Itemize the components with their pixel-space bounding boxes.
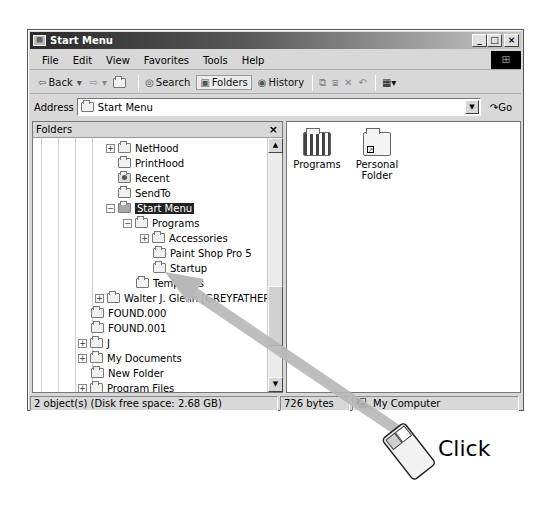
tree-label-selected: Start Menu: [135, 203, 194, 214]
folders-button[interactable]: ▣Folders: [196, 75, 252, 90]
address-input[interactable]: Start Menu ▼: [77, 98, 481, 116]
close-pane-icon[interactable]: ×: [269, 123, 278, 136]
scroll-up-icon[interactable]: ▲: [268, 138, 283, 153]
status-objects: 2 object(s) (Disk free space: 2.68 GB): [30, 396, 278, 411]
tree-label: SendTo: [135, 188, 171, 199]
menu-file[interactable]: File: [42, 55, 59, 66]
folder-icon: [118, 158, 131, 168]
undo-icon: ↶: [359, 77, 367, 88]
tree-item-program-files[interactable]: +Program Files: [78, 381, 174, 392]
standard-toolbar: ⇦Back▾ ⇨▾ ◎Search ▣Folders ◉History ⧉ ⧈ …: [30, 72, 521, 94]
folder-icon: [118, 143, 131, 153]
tree-item-printhood[interactable]: PrintHood: [118, 156, 184, 170]
go-label: Go: [498, 102, 512, 113]
title-bar[interactable]: ▤ Start Menu _ □ ×: [30, 32, 521, 49]
mouse-click-icon: [381, 418, 441, 484]
zone-label: My Computer: [373, 398, 440, 409]
shortcut-folder-icon: ↗: [363, 132, 391, 156]
address-label: Address: [34, 102, 74, 113]
tree-item-new-folder[interactable]: New Folder: [91, 366, 164, 380]
forward-arrow-icon: ⇨: [90, 77, 98, 88]
scroll-thumb[interactable]: [268, 286, 283, 346]
tree-label: PrintHood: [135, 158, 184, 169]
views-button[interactable]: ▦▾: [382, 77, 396, 88]
tree-label: Paint Shop Pro 5: [170, 248, 252, 259]
close-button[interactable]: ×: [504, 34, 519, 47]
expand-icon[interactable]: +: [106, 144, 115, 153]
back-dropdown-icon[interactable]: ▾: [77, 77, 82, 88]
copy-to-button[interactable]: ⧈: [332, 77, 338, 89]
tree-label: Accessories: [169, 233, 228, 244]
folder-icon: [153, 248, 166, 258]
folder-icon: [136, 278, 149, 288]
recent-folder-icon: [118, 173, 131, 183]
tree-item-start-menu[interactable]: −Start Menu: [106, 201, 194, 215]
address-dropdown-icon[interactable]: ▼: [465, 100, 479, 114]
scroll-down-icon[interactable]: ▼: [268, 377, 283, 392]
menu-tools[interactable]: Tools: [203, 55, 228, 66]
tree-label: My Documents: [107, 353, 182, 364]
tree-label: New Folder: [108, 368, 164, 379]
menu-edit[interactable]: Edit: [73, 55, 92, 66]
tree-label: Recent: [135, 173, 170, 184]
toolbar-separator: [312, 75, 313, 91]
tree-item-j[interactable]: +J: [78, 336, 110, 350]
folder-icon: [90, 383, 103, 392]
tree-item-found-001[interactable]: FOUND.001: [91, 321, 166, 335]
folder-icon: [90, 353, 103, 363]
expand-icon[interactable]: +: [78, 354, 87, 363]
tree-item-startup[interactable]: Startup: [153, 261, 207, 275]
item-programs[interactable]: Programs: [287, 132, 347, 170]
collapse-icon[interactable]: −: [106, 204, 115, 213]
status-size: 726 bytes: [280, 396, 350, 411]
tree-item-found-000[interactable]: FOUND.000: [91, 306, 166, 320]
go-arrow-icon: ↷: [490, 102, 498, 113]
menu-view[interactable]: View: [106, 55, 130, 66]
history-button[interactable]: ◉History: [258, 77, 304, 88]
maximize-button[interactable]: □: [487, 34, 502, 47]
folder-icon: [91, 368, 104, 378]
expand-icon[interactable]: +: [95, 294, 104, 303]
minimize-button[interactable]: _: [472, 34, 487, 47]
delete-button[interactable]: ✕: [344, 77, 352, 88]
collapse-icon[interactable]: −: [123, 219, 132, 228]
tree-item-nethood[interactable]: +NetHood: [106, 141, 179, 155]
menu-favorites[interactable]: Favorites: [144, 55, 189, 66]
address-bar: Address Start Menu ▼ ↷Go: [30, 96, 521, 118]
folder-icon: [152, 233, 165, 243]
folder-icon: [81, 102, 94, 112]
expand-icon[interactable]: +: [78, 384, 87, 393]
folder-window-icon: ▤: [33, 35, 46, 46]
move-to-button[interactable]: ⧉: [319, 77, 326, 89]
folders-icon: ▣: [200, 77, 209, 88]
tree-item-programs[interactable]: −Programs: [123, 216, 199, 230]
expand-icon[interactable]: +: [140, 234, 149, 243]
expand-icon[interactable]: +: [78, 339, 87, 348]
tree-item-accessories[interactable]: +Accessories: [140, 231, 228, 245]
tree-item-sendto[interactable]: SendTo: [118, 186, 171, 200]
back-button[interactable]: ⇦Back▾: [38, 77, 84, 88]
undo-button[interactable]: ↶: [359, 77, 367, 88]
tree-item-templates[interactable]: Templates: [136, 276, 204, 290]
search-button[interactable]: ◎Search: [145, 77, 190, 88]
menu-help[interactable]: Help: [242, 55, 265, 66]
tree-item-paint-shop-pro[interactable]: Paint Shop Pro 5: [153, 246, 252, 260]
forward-button[interactable]: ⇨▾: [90, 77, 107, 88]
tree-label: FOUND.000: [108, 308, 166, 319]
up-folder-button[interactable]: [113, 78, 130, 88]
tree-item-walter-glenn[interactable]: +Walter J. Glenn [GREYFATHER]: [95, 291, 267, 305]
folder-icon: [107, 293, 120, 303]
folder-icon: [90, 338, 103, 348]
folder-tree: +NetHood PrintHood Recent SendTo −Start …: [33, 138, 267, 392]
item-personal-folder[interactable]: ↗ Personal Folder: [347, 132, 407, 181]
delete-x-icon: ✕: [344, 77, 352, 88]
go-button[interactable]: ↷Go: [481, 102, 521, 113]
tree-label: Walter J. Glenn [GREYFATHER]: [124, 293, 267, 304]
tree-item-recent[interactable]: Recent: [118, 171, 170, 185]
tree-item-my-documents[interactable]: +My Documents: [78, 351, 182, 365]
tree-scrollbar[interactable]: ▲ ▼: [267, 138, 282, 392]
forward-dropdown-icon[interactable]: ▾: [102, 77, 107, 88]
folders-label: Folders: [212, 77, 248, 88]
toolbar-separator: [375, 75, 376, 91]
tree-label: FOUND.001: [108, 323, 166, 334]
